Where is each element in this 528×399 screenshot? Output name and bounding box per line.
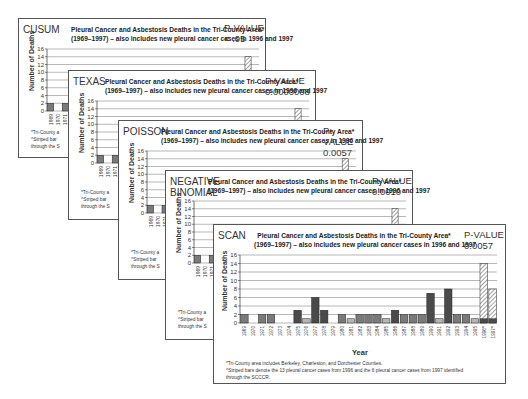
svg-text:14: 14 <box>37 54 44 60</box>
svg-text:1969: 1969 <box>48 114 54 125</box>
svg-text:2: 2 <box>41 100 45 106</box>
svg-text:1970: 1970 <box>105 166 111 177</box>
svg-text:14: 14 <box>230 261 237 267</box>
svg-text:1973: 1973 <box>278 326 283 337</box>
svg-text:14: 14 <box>87 106 94 112</box>
svg-text:1990: 1990 <box>429 326 434 337</box>
svg-text:1969: 1969 <box>98 166 104 177</box>
pvalue: P-VALUE 0.0010 <box>372 175 412 197</box>
svg-text:1976: 1976 <box>304 326 309 337</box>
footnotes: *Tri-County a ^Striped bar through the S <box>81 189 110 210</box>
svg-text:10: 10 <box>87 121 94 127</box>
svg-text:6: 6 <box>141 187 145 193</box>
svg-text:0: 0 <box>188 260 192 266</box>
svg-text:12: 12 <box>87 114 94 120</box>
svg-text:1971: 1971 <box>260 326 265 337</box>
svg-text:2: 2 <box>234 312 238 318</box>
svg-text:1978: 1978 <box>322 326 327 337</box>
svg-text:12: 12 <box>137 164 144 170</box>
svg-text:10: 10 <box>184 221 191 227</box>
svg-text:16: 16 <box>87 98 94 104</box>
svg-text:1987: 1987 <box>402 326 407 337</box>
svg-text:1986: 1986 <box>393 326 398 337</box>
svg-text:8: 8 <box>91 129 95 135</box>
svg-text:1981: 1981 <box>349 326 354 337</box>
pvalue: P-VALUE < .05 <box>224 22 264 44</box>
svg-text:1975: 1975 <box>296 326 301 337</box>
svg-text:1985: 1985 <box>384 326 389 337</box>
method-label: TEXAS <box>73 76 106 87</box>
chart-title: Pleural Cancer and Asbestosis Deaths in … <box>105 77 275 95</box>
svg-text:8: 8 <box>41 77 45 83</box>
svg-text:1997^: 1997^ <box>491 325 496 338</box>
svg-text:10: 10 <box>230 278 237 284</box>
svg-text:1980: 1980 <box>340 326 345 337</box>
svg-text:4: 4 <box>41 93 45 99</box>
svg-text:1969: 1969 <box>148 216 154 227</box>
svg-text:1991: 1991 <box>437 326 442 337</box>
svg-text:1983: 1983 <box>367 326 372 337</box>
svg-text:14: 14 <box>137 156 144 162</box>
svg-text:1970: 1970 <box>155 216 161 227</box>
svg-text:10: 10 <box>137 171 144 177</box>
svg-text:6: 6 <box>188 237 192 243</box>
panel-scan: SCAN Pleural Cancer and Asbestosis Death… <box>213 224 506 384</box>
svg-text:1995: 1995 <box>473 326 478 337</box>
svg-text:1996^: 1996^ <box>482 325 487 338</box>
svg-text:1992: 1992 <box>446 326 451 337</box>
method-label: SCAN <box>218 230 246 241</box>
svg-text:4: 4 <box>188 245 192 251</box>
svg-text:1970: 1970 <box>251 326 256 337</box>
svg-text:0: 0 <box>234 320 238 326</box>
footnotes: *Tri-County a ^Striped bar through the S <box>178 309 207 330</box>
chart-title: Pleural Cancer and Asbestosis Deaths in … <box>71 25 231 43</box>
y-axis-label: Number of Deaths <box>221 251 228 311</box>
svg-text:0: 0 <box>91 160 95 166</box>
svg-text:16: 16 <box>37 46 44 52</box>
svg-text:12: 12 <box>184 214 191 220</box>
footnotes: *Tri-County a ^Striped bar through the S <box>31 129 60 150</box>
svg-text:6: 6 <box>91 137 95 143</box>
svg-text:1988: 1988 <box>411 326 416 337</box>
svg-text:1969: 1969 <box>242 326 247 337</box>
svg-text:12: 12 <box>37 62 44 68</box>
footnotes: *Tri-County area includes Berkeley, Char… <box>226 360 463 381</box>
svg-text:1970: 1970 <box>202 266 208 277</box>
svg-text:16: 16 <box>184 198 191 204</box>
y-axis-label: Number of Deaths <box>78 93 85 153</box>
svg-text:10: 10 <box>37 69 44 75</box>
pvalue: P-VALUE 0.0000008 <box>265 75 310 97</box>
svg-text:1970: 1970 <box>55 114 61 125</box>
svg-text:1974: 1974 <box>287 326 292 337</box>
pvalue: P-VALUE 0.0057 <box>464 229 504 251</box>
svg-text:16: 16 <box>230 252 237 258</box>
svg-text:4: 4 <box>91 145 95 151</box>
svg-text:1989: 1989 <box>420 326 425 337</box>
svg-text:1994: 1994 <box>464 326 469 337</box>
svg-text:8: 8 <box>234 286 238 292</box>
svg-text:1972: 1972 <box>269 326 274 337</box>
svg-text:2: 2 <box>188 252 192 258</box>
svg-text:1993: 1993 <box>455 326 460 337</box>
svg-text:4: 4 <box>234 303 238 309</box>
svg-text:0: 0 <box>141 210 145 216</box>
svg-text:1982: 1982 <box>358 326 363 337</box>
svg-text:2: 2 <box>91 152 95 158</box>
y-axis-label: Number of Deaths <box>128 143 135 203</box>
svg-text:1969: 1969 <box>195 266 201 277</box>
y-axis-label: Number of Deaths <box>175 193 182 253</box>
x-axis-label: Year <box>352 348 368 357</box>
svg-text:1979: 1979 <box>331 326 336 337</box>
svg-text:12: 12 <box>230 269 237 275</box>
svg-text:8: 8 <box>188 229 192 235</box>
svg-text:16: 16 <box>137 148 144 154</box>
footnotes: *Tri-County a ^Striped bar through the S <box>131 249 160 270</box>
svg-text:14: 14 <box>184 206 191 212</box>
chart-title: Pleural Cancer and Asbestosis Deaths in … <box>254 231 454 249</box>
svg-text:6: 6 <box>41 85 45 91</box>
chart-title: Pleural Cancer and Asbestosis Deaths in … <box>161 127 321 145</box>
svg-text:1977: 1977 <box>313 326 318 337</box>
svg-text:0: 0 <box>41 108 45 114</box>
svg-text:6: 6 <box>234 295 238 301</box>
chart-title: Pleural Cancer and Asbestosis Deaths in … <box>208 177 368 195</box>
